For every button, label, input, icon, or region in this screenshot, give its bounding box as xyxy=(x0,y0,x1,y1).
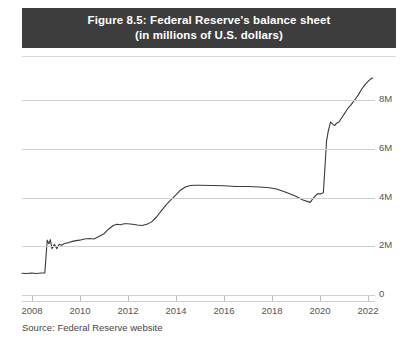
x-tick-2020 xyxy=(320,296,321,301)
y-axis-label-8M: 8M xyxy=(379,94,392,104)
x-axis-label-2022: 2022 xyxy=(357,305,378,316)
figure-container: Figure 8.5: Federal Reserve's balance sh… xyxy=(0,0,418,340)
x-axis-label-2014: 2014 xyxy=(165,305,186,316)
chart-plot-area: 02M4M6M8M2008201020122014201620182020202… xyxy=(0,0,418,340)
x-tick-2012 xyxy=(128,296,129,301)
x-axis-label-2012: 2012 xyxy=(117,305,138,316)
x-tick-2014 xyxy=(176,296,177,301)
x-axis-line xyxy=(22,301,375,302)
x-tick-2010 xyxy=(80,296,81,301)
gridline-y-4M xyxy=(22,198,375,199)
x-axis-label-2018: 2018 xyxy=(261,305,282,316)
y-axis-label-2M: 2M xyxy=(379,240,392,250)
x-tick-2022 xyxy=(368,296,369,301)
gridline-y-0 xyxy=(22,295,375,296)
x-axis-label-2008: 2008 xyxy=(21,305,42,316)
series-line-chart xyxy=(0,0,418,340)
series-path-federal-reserve-assets xyxy=(22,78,373,273)
y-axis-label-6M: 6M xyxy=(379,143,392,153)
x-axis-label-2020: 2020 xyxy=(309,305,330,316)
y-axis-label-4M: 4M xyxy=(379,192,392,202)
y-axis-label-0: 0 xyxy=(379,289,384,299)
gridline-y-2M xyxy=(22,246,375,247)
source-note: Source: Federal Reserve website xyxy=(22,322,162,333)
x-tick-2016 xyxy=(224,296,225,301)
x-tick-2008 xyxy=(32,296,33,301)
x-axis-label-2010: 2010 xyxy=(69,305,90,316)
gridline-y-8M xyxy=(22,100,375,101)
x-tick-2018 xyxy=(272,296,273,301)
gridline-y-6M xyxy=(22,149,375,150)
x-axis-label-2016: 2016 xyxy=(213,305,234,316)
